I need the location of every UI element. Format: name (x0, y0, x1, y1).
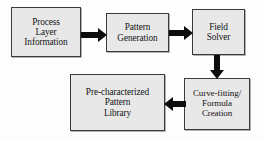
flow-node-line: Pattern (125, 22, 151, 32)
arrow-head (164, 97, 173, 111)
flow-node-pattern-generation[interactable]: Pattern Generation (106, 13, 169, 52)
flow-node-line: Library (104, 108, 131, 118)
flow-node-process-layer-information[interactable]: Process Layer Information (11, 7, 81, 57)
arrow-head (184, 26, 193, 40)
flow-node-line: Solver (207, 32, 231, 42)
arrow-shaft (81, 32, 99, 38)
flow-node-line: Pre-characterized (86, 87, 149, 97)
arrow-head (210, 70, 224, 79)
arrow-left-icon-curve-to-library (164, 97, 186, 111)
flow-node-field-solver[interactable]: Field Solver (192, 9, 245, 55)
arrow-right-icon-pattern-to-field (169, 26, 193, 40)
flow-node-line: Creation (202, 109, 232, 119)
flow-node-line: Information (24, 37, 67, 47)
arrow-shaft (172, 101, 186, 107)
flow-node-line: Pattern (105, 97, 131, 107)
flowchart-canvas: Process Layer Information Pattern Genera… (0, 0, 263, 141)
arrow-shaft (214, 55, 220, 71)
arrow-shaft (169, 30, 185, 36)
arrow-right-icon-process-to-pattern (81, 28, 107, 42)
flow-node-line: Layer (35, 27, 56, 37)
flow-node-line: Process (32, 17, 60, 27)
arrow-down-icon-field-to-curve (210, 55, 224, 79)
flow-node-line: Generation (117, 33, 157, 43)
arrow-head (98, 28, 107, 42)
flow-node-curve-fitting-formula-creation[interactable]: Curve-fitting/ Formula Creation (184, 78, 250, 130)
flow-node-line: Field (209, 22, 228, 32)
flow-node-pre-characterized-pattern-library[interactable]: Pre-characterized Pattern Library (70, 74, 165, 131)
